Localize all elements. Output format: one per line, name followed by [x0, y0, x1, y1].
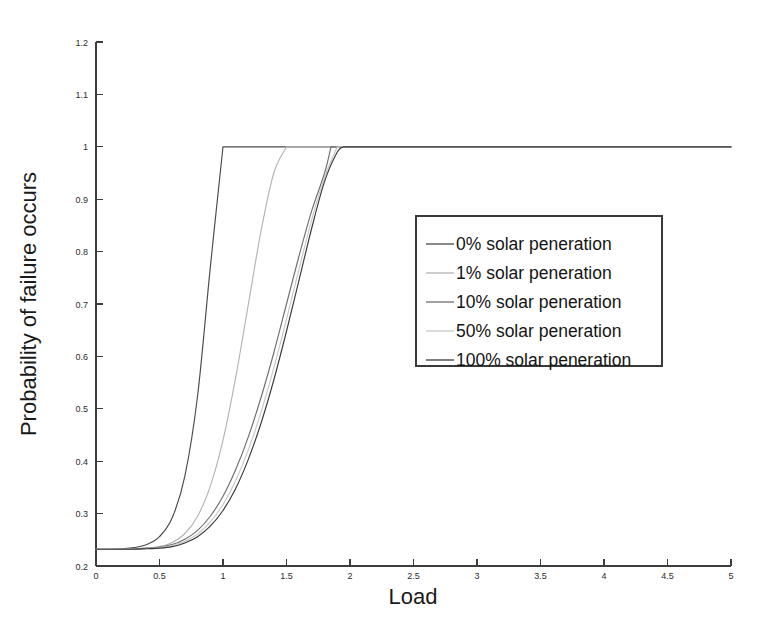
- legend-label-3: 50% solar peneration: [456, 321, 621, 341]
- y-tick-label: 0.9: [75, 195, 88, 205]
- x-tick-label: 4.5: [661, 571, 674, 581]
- x-tick-label: 2: [347, 571, 352, 581]
- y-tick-label: 0.7: [75, 300, 88, 310]
- chart-legend[interactable]: 0% solar peneration1% solar peneration10…: [416, 216, 662, 370]
- x-tick-label: 5: [728, 571, 733, 581]
- y-tick-label: 0.2: [75, 562, 88, 572]
- x-tick-label: 3: [474, 571, 479, 581]
- x-tick-label: 1: [220, 571, 225, 581]
- y-tick-label: 0.5: [75, 404, 88, 414]
- x-tick-label: 1.5: [280, 571, 293, 581]
- y-tick-label: 0.6: [75, 352, 88, 362]
- figure-canvas: 0.20.30.40.50.60.70.80.911.11.2 00.511.5…: [0, 0, 764, 623]
- y-tick-label: 0.4: [75, 457, 88, 467]
- x-tick-label: 0: [93, 571, 98, 581]
- legend-label-0: 0% solar peneration: [456, 234, 612, 254]
- y-axis-title: Probability of failure occurs: [16, 172, 41, 436]
- y-tick-label: 1.2: [75, 38, 88, 48]
- x-tick-label: 0.5: [153, 571, 166, 581]
- legend-label-1: 1% solar peneration: [456, 263, 612, 283]
- x-tick-label: 3.5: [534, 571, 547, 581]
- x-axis-ticks: 00.511.522.533.544.55: [93, 559, 733, 581]
- y-tick-label: 0.3: [75, 509, 88, 519]
- y-tick-label: 1.1: [75, 90, 88, 100]
- legend-label-4: 100% solar peneration: [456, 350, 631, 370]
- x-tick-label: 4: [601, 571, 606, 581]
- x-axis-title: Load: [389, 584, 438, 609]
- y-tick-label: 0.8: [75, 247, 88, 257]
- legend-label-2: 10% solar peneration: [456, 292, 621, 312]
- x-tick-label: 2.5: [407, 571, 420, 581]
- y-axis-ticks: 0.20.30.40.50.60.70.80.911.11.2: [75, 38, 103, 572]
- chart-plot: 0.20.30.40.50.60.70.80.911.11.2 00.511.5…: [0, 0, 764, 623]
- y-tick-label: 1: [83, 142, 88, 152]
